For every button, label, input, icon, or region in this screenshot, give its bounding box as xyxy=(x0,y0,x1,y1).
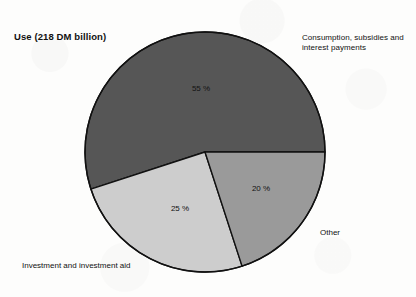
slice-value-investment: 25 % xyxy=(171,204,189,213)
chart-title: Use (218 DM billion) xyxy=(14,31,106,43)
callout-label-consumption: Consumption, subsidies and interest paym… xyxy=(302,33,404,53)
pie-chart-figure: 55 % 25 % 20 % Use (218 DM billion) Cons… xyxy=(0,0,416,297)
callout-label-other: Other xyxy=(320,228,340,238)
slice-value-other: 20 % xyxy=(252,184,270,193)
callout-label-investment: Investment and investment aid xyxy=(22,261,131,271)
slice-value-consumption: 55 % xyxy=(192,84,210,93)
